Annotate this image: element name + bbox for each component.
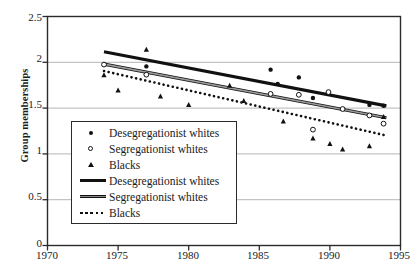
open-circle-marker-icon [75,141,109,157]
legend-item-blacks-trend: Blacks [75,205,236,221]
legend-label: Blacks [109,157,140,173]
data-point-desegregationist-whites [297,75,301,79]
legend-label: Desegregationist whites [109,125,219,141]
data-point-segregationist-whites [367,113,372,118]
data-point-blacks [241,98,246,103]
legend-item-segregationist-whites-points: Segregationist whites [75,141,236,157]
data-point-desegregationist-whites [311,96,315,100]
data-point-desegregationist-whites [381,104,385,108]
data-point-blacks [158,93,163,98]
data-point-blacks [101,72,106,77]
legend-label: Desegregationist whites [109,173,219,189]
trend-line [104,52,386,106]
data-point-blacks [116,87,121,92]
data-point-desegregationist-whites [367,103,371,107]
data-point-blacks [227,83,232,88]
data-point-segregationist-whites [326,90,331,95]
data-point-segregationist-whites [268,92,273,97]
chart-legend: Desegregationist whites Segregationist w… [71,121,237,224]
legend-item-desegregationist-whites-trend: Desegregationist whites [75,173,236,189]
legend-label: Blacks [109,205,140,221]
data-point-blacks [367,143,372,148]
data-point-desegregationist-whites [268,67,272,71]
data-point-blacks [186,102,191,107]
dotted-line-swatch-icon [75,205,109,221]
data-point-desegregationist-whites [144,64,148,68]
data-point-segregationist-whites [381,121,386,126]
data-point-blacks [340,147,345,152]
legend-item-segregationist-whites-trend: Segregationist whites [75,189,236,205]
legend-label: Segregationist whites [109,189,208,205]
data-point-blacks [327,141,332,146]
legend-item-desegregationist-whites-points: Desegregationist whites [75,125,236,141]
data-point-segregationist-whites [311,127,316,132]
data-point-blacks [310,136,315,141]
data-point-blacks [144,47,149,52]
gray-line-swatch-icon [75,189,109,205]
filled-circle-marker-icon [75,125,109,141]
thick-line-swatch-icon [75,173,109,189]
legend-item-blacks-points: Blacks [75,157,236,173]
data-point-segregationist-whites [102,62,107,67]
filled-triangle-marker-icon [75,157,109,173]
data-point-blacks [281,119,286,124]
legend-label: Segregationist whites [109,141,208,157]
chart-figure: Group memberships 2.5 2 1.5 1 0.5 0 1970… [0,0,417,273]
data-point-segregationist-whites [340,107,345,112]
data-point-segregationist-whites [296,92,301,97]
data-point-desegregationist-whites [275,82,279,86]
data-point-segregationist-whites [144,72,149,77]
